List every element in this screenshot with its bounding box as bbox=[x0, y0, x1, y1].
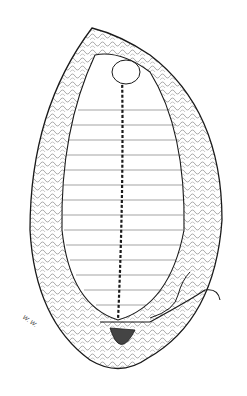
illustration-canvas: W. W. bbox=[0, 0, 247, 396]
anatomical-illustration bbox=[0, 0, 247, 396]
upper-structure bbox=[112, 60, 140, 84]
